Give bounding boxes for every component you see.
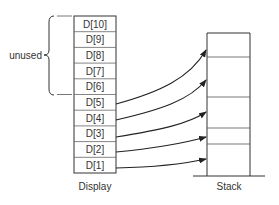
unused-label: unused (9, 50, 42, 61)
display-cell-d10: D[10] (83, 19, 107, 30)
display-caption: Display (79, 181, 112, 192)
display-array: D[10] D[9] D[8] D[7] D[6] D[5] D[4] D[3]… (74, 16, 116, 173)
display-cell-d6: D[6] (86, 81, 105, 92)
display-cell-d1: D[1] (86, 160, 105, 171)
arrow-d3 (116, 112, 206, 137)
display-cell-d2: D[2] (86, 144, 105, 155)
display-cell-d9: D[9] (86, 34, 105, 45)
display-cell-d4: D[4] (86, 113, 105, 124)
display-cell-d8: D[8] (86, 50, 105, 61)
stack-caption: Stack (216, 181, 242, 192)
arrow-d5 (116, 50, 206, 104)
display-cell-d3: D[3] (86, 128, 105, 139)
unused-bracket (44, 16, 72, 95)
display-cell-d5: D[5] (86, 97, 105, 108)
display-stack-diagram: D[10] D[9] D[8] D[7] D[6] D[5] D[4] D[3]… (0, 0, 279, 205)
arrow-d1 (116, 159, 206, 168)
display-to-stack-arrows (116, 50, 206, 168)
arrow-d2 (116, 137, 206, 152)
display-cell-d7: D[7] (86, 66, 105, 77)
